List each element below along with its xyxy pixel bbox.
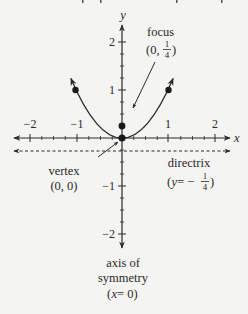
focus-pointer-arrow: [133, 62, 155, 108]
cropped-caption-fragments: [82, 0, 223, 3]
focus-label-coord-suffix: ): [172, 43, 176, 57]
point-right-1-1: [165, 87, 171, 93]
x-tick-label-1: 1: [165, 117, 171, 131]
focus-label-coord-prefix: (0,: [146, 43, 160, 57]
vertex-label-coord: (0, 0): [50, 179, 77, 193]
x-tick-label-neg2: −2: [24, 117, 37, 131]
directrix-label-name: directrix: [168, 156, 211, 170]
directrix-eq-mid: = −: [177, 175, 194, 189]
x-axis-label: x: [233, 131, 240, 145]
y-tick-label-neg1: −1: [102, 179, 115, 193]
focus-label: focus (0, 1 4 ): [146, 25, 176, 60]
x-axis: −2 −1 1 2 x: [14, 117, 240, 145]
focus-point: [119, 123, 126, 130]
x-tick-label-2: 2: [212, 117, 218, 131]
y-tick-label-neg2: −2: [102, 227, 115, 241]
axis-label-line1: axis of: [106, 256, 141, 270]
focus-frac-denominator: 4: [165, 50, 170, 60]
vertex-label: vertex (0, 0): [48, 164, 80, 193]
vertex-pointer-arrow: [98, 142, 118, 157]
axis-eq-rest: = 0): [117, 287, 138, 301]
directrix-label: directrix ( y = − 1 4 ): [167, 156, 214, 192]
focus-frac-numerator: 1: [165, 39, 170, 49]
y-tick-label-2: 2: [109, 35, 115, 49]
x-tick-label-neg1: −1: [71, 117, 84, 131]
parabola-diagram: −2 −1 1 2 x 2 1 −1 −2: [0, 0, 248, 314]
axis-of-symmetry-label: axis of symmetry ( x = 0): [98, 256, 149, 301]
vertex-label-name: vertex: [48, 164, 80, 178]
axis-label-line2: symmetry: [98, 271, 149, 285]
y-tick-label-1: 1: [109, 83, 115, 97]
focus-label-name: focus: [147, 25, 174, 39]
y-axis-label: y: [118, 8, 126, 22]
vertex-point: [118, 134, 125, 141]
directrix-eq-suffix: ): [210, 175, 214, 189]
directrix-frac-denominator: 4: [203, 182, 208, 192]
point-left-neg1-1: [72, 87, 78, 93]
directrix-frac-numerator: 1: [203, 171, 208, 181]
